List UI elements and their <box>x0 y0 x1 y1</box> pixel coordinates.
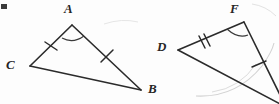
vertex-label-d: D <box>157 40 166 53</box>
segment-cb <box>30 66 141 90</box>
triangle-abc <box>30 25 141 90</box>
angle-arc-a <box>62 36 84 41</box>
faint-marks-group <box>104 4 276 96</box>
vertex-label-f: F <box>230 2 239 15</box>
faint-arc-right <box>196 43 274 96</box>
tick-side-ab <box>101 50 113 62</box>
corner-speck <box>1 4 7 9</box>
faint-arc-left <box>104 20 138 24</box>
tick-side-df <box>199 36 205 48</box>
segment-df <box>178 22 244 50</box>
vertex-label-c: C <box>6 58 15 71</box>
segment-de <box>178 50 279 104</box>
geometry-figure: A C B F D <box>0 0 279 104</box>
vertex-label-b: B <box>148 82 157 95</box>
vertex-label-a: A <box>64 2 73 15</box>
angle-arc-f <box>227 29 248 36</box>
tick-side-df-2 <box>204 34 210 46</box>
faint-arc-upper-right <box>252 4 276 16</box>
